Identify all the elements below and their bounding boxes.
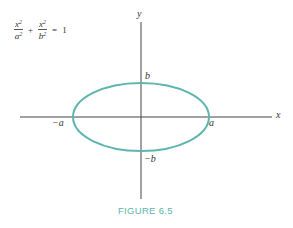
y-axis-label: y [137, 8, 141, 19]
point-label-neg-b: −b [144, 153, 156, 164]
figure-caption: FIGURE 6.5 [118, 205, 173, 216]
equation-rhs: 1 [62, 25, 67, 35]
equals-sign: = [52, 25, 57, 35]
exponent: 2 [43, 19, 46, 25]
point-label-neg-a: −a [52, 117, 64, 128]
exponent: 2 [19, 31, 22, 37]
exponent: 2 [43, 31, 46, 37]
fraction-x-over-b: x2 b2 [38, 18, 47, 41]
plus-sign: + [28, 25, 33, 35]
fraction-x-over-a: x2 a2 [14, 18, 23, 41]
x-axis-label: x [276, 109, 280, 120]
exponent: 2 [19, 19, 22, 25]
ellipse-equation: x2 a2 + x2 b2 = 1 [14, 18, 67, 41]
point-label-a: a [209, 117, 214, 128]
point-label-b: b [145, 70, 150, 81]
